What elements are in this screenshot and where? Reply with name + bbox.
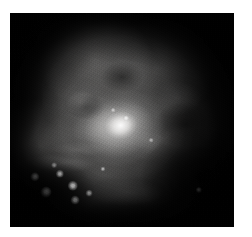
nebula-core-layer bbox=[10, 13, 234, 227]
star-1 bbox=[30, 172, 39, 181]
page-frame bbox=[0, 0, 252, 237]
star-12 bbox=[149, 138, 154, 143]
star-9 bbox=[195, 187, 201, 193]
nebula-scan-striping bbox=[10, 13, 234, 227]
star-3 bbox=[56, 170, 64, 178]
nebula-diffuse-layer bbox=[10, 13, 234, 227]
nebula-wisp-layer bbox=[10, 13, 234, 227]
star-8 bbox=[100, 166, 105, 171]
star-4 bbox=[68, 181, 78, 191]
nebula-vignette-layer bbox=[10, 13, 234, 227]
star-field bbox=[10, 13, 234, 227]
star-11 bbox=[111, 108, 116, 113]
nebula-dark-lane-layer bbox=[10, 13, 234, 227]
nebula-grain-layer bbox=[10, 13, 234, 227]
nebula-image-plate bbox=[10, 13, 234, 227]
star-2 bbox=[40, 186, 51, 197]
star-10 bbox=[124, 115, 130, 121]
star-5 bbox=[71, 196, 80, 205]
star-7 bbox=[51, 162, 57, 168]
star-6 bbox=[86, 190, 93, 197]
